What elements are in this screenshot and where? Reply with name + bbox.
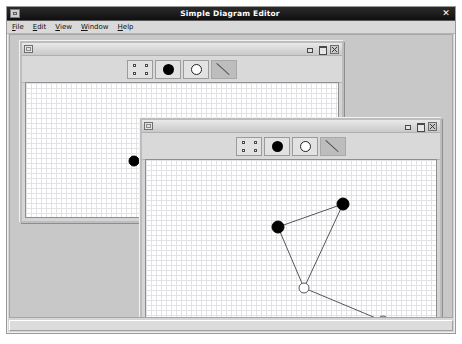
- select-handles-icon: [242, 141, 257, 152]
- graph-edge[interactable]: [278, 227, 304, 288]
- minimize-icon[interactable]: [306, 45, 315, 54]
- application-window: Simple Diagram Editor ✕ File Edit View W…: [6, 6, 456, 334]
- menu-edit-label: dit: [37, 23, 46, 31]
- close-icon[interactable]: [330, 45, 339, 54]
- page-title: Simple Diagram Editor: [20, 7, 440, 20]
- menu-window[interactable]: Window: [81, 21, 109, 33]
- graph-edge[interactable]: [278, 204, 343, 227]
- maximize-icon[interactable]: [318, 45, 327, 54]
- status-bar: [9, 320, 453, 331]
- close-icon[interactable]: ✕: [440, 7, 452, 20]
- graph-edge[interactable]: [304, 204, 343, 288]
- menu-view[interactable]: View: [55, 21, 72, 33]
- graph-node-filled[interactable]: [337, 198, 349, 210]
- window-restore-icon[interactable]: [10, 9, 20, 18]
- filled-circle-icon: [272, 141, 283, 152]
- graph-node-open[interactable]: [378, 316, 388, 318]
- diagram-window-2-titlebar[interactable]: [142, 120, 440, 133]
- menu-view-label: iew: [60, 23, 72, 31]
- diagram-window-1-controls: [306, 45, 339, 54]
- window-menu-icon[interactable]: [144, 122, 153, 130]
- menu-help-label: elp: [123, 23, 134, 31]
- window-menu-icon[interactable]: [24, 45, 33, 53]
- tool-line-button[interactable]: [211, 60, 237, 79]
- close-icon[interactable]: [428, 122, 437, 131]
- diagram-graph-2: [146, 160, 437, 318]
- line-icon: [326, 140, 340, 152]
- tool-select-button[interactable]: [127, 60, 153, 79]
- menu-edit[interactable]: Edit: [33, 21, 47, 33]
- menu-help[interactable]: Help: [118, 21, 134, 33]
- open-circle-icon: [300, 141, 311, 152]
- graph-node-filled[interactable]: [129, 156, 139, 166]
- line-icon: [217, 63, 231, 75]
- menu-window-label: indow: [88, 23, 109, 31]
- diagram-window-2-toolbar: [142, 133, 440, 160]
- diagram-canvas-2[interactable]: [145, 159, 437, 318]
- tool-line-button[interactable]: [320, 137, 346, 156]
- filled-circle-icon: [163, 64, 174, 75]
- diagram-window-2[interactable]: [140, 118, 442, 318]
- menu-window-mnemonic: W: [81, 23, 88, 31]
- diagram-window-1-titlebar[interactable]: [22, 43, 342, 56]
- maximize-icon[interactable]: [416, 122, 425, 131]
- tool-open-node-button[interactable]: [292, 137, 318, 156]
- graph-edge[interactable]: [304, 288, 383, 318]
- menu-file[interactable]: File: [12, 21, 24, 33]
- tool-select-button[interactable]: [236, 137, 262, 156]
- main-titlebar[interactable]: Simple Diagram Editor ✕: [7, 7, 455, 21]
- minimize-icon[interactable]: [404, 122, 413, 131]
- menubar: File Edit View Window Help: [7, 21, 455, 34]
- tool-open-node-button[interactable]: [183, 60, 209, 79]
- graph-node-open[interactable]: [299, 283, 309, 293]
- tool-filled-node-button[interactable]: [155, 60, 181, 79]
- select-handles-icon: [133, 64, 148, 75]
- diagram-window-2-controls: [404, 122, 437, 131]
- menu-file-label: ile: [16, 23, 24, 31]
- open-circle-icon: [191, 64, 202, 75]
- tool-filled-node-button[interactable]: [264, 137, 290, 156]
- graph-node-filled[interactable]: [272, 221, 284, 233]
- diagram-window-1-toolbar: [22, 56, 342, 83]
- mdi-desktop[interactable]: [9, 34, 453, 318]
